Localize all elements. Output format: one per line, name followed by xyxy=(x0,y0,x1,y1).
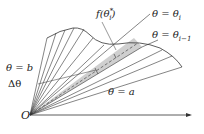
theta-b-label: θ = b xyxy=(6,63,33,73)
theta-i-label: θ = θi xyxy=(152,9,181,22)
f-theta-label: f(θ*i) xyxy=(96,8,115,22)
arrow-head-icon xyxy=(186,113,192,117)
origin-label: O xyxy=(21,110,30,121)
theta-i-1-label: θ = θi−1 xyxy=(152,30,191,43)
theta-a-label: θ = a xyxy=(108,87,135,97)
delta-theta-label: Δθ xyxy=(8,79,21,89)
f-leader xyxy=(102,22,116,50)
